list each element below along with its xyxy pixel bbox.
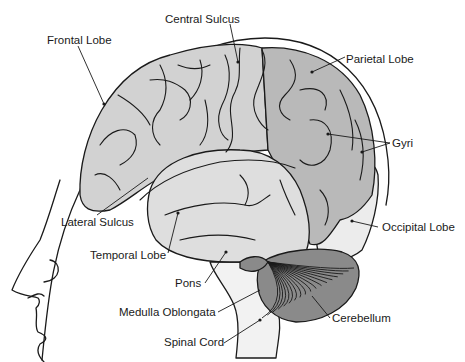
label-parietal-lobe: Parietal Lobe xyxy=(346,53,414,65)
brain-diagram: Central Sulcus Frontal Lobe Parietal Lob… xyxy=(0,0,465,362)
face-profile xyxy=(12,180,60,362)
label-central-sulcus: Central Sulcus xyxy=(165,13,240,25)
label-lateral-sulcus: Lateral Sulcus xyxy=(61,216,134,228)
label-cerebellum: Cerebellum xyxy=(332,312,391,324)
nostril xyxy=(44,260,58,282)
label-frontal-lobe: Frontal Lobe xyxy=(47,34,112,46)
label-occipital-lobe: Occipital Lobe xyxy=(382,221,455,233)
label-gyri: Gyri xyxy=(392,137,413,149)
label-spinal-cord: Spinal Cord xyxy=(164,336,224,348)
label-temporal-lobe: Temporal Lobe xyxy=(90,249,166,261)
label-medulla-oblongata: Medulla Oblongata xyxy=(119,306,216,318)
label-pons: Pons xyxy=(175,277,201,289)
